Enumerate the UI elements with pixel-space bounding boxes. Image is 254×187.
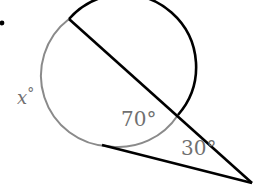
label-arc-x: x°: [17, 85, 34, 108]
arc-x-gray: [41, 19, 178, 147]
label-arc-70: 70°: [121, 107, 156, 131]
secant-line: [69, 19, 252, 183]
geometry-diagram: x° 70° 30°: [0, 0, 254, 187]
label-angle-30: 30°: [181, 136, 216, 160]
arc-top-black: [69, 0, 196, 115]
bullet-dot: [0, 21, 4, 26]
